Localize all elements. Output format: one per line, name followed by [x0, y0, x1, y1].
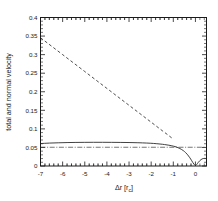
x-axis-title: Δr [rc] — [115, 183, 133, 193]
data-series-group — [41, 38, 207, 166]
y-tick-labels: 00.050.10.150.20.250.30.350.4 — [25, 14, 38, 170]
y-axis-title: total and normal velocity — [4, 53, 13, 131]
y-tick-label: 0.1 — [29, 125, 38, 132]
y-tick-label: 0.4 — [29, 14, 38, 21]
y-tick-label: 0 — [34, 162, 38, 169]
y-tick-label: 0.25 — [25, 69, 38, 76]
x-tick-label: -2 — [148, 170, 154, 177]
x-tick-label: -5 — [82, 170, 88, 177]
x-tick-label: -6 — [60, 170, 66, 177]
y-tick-label: 0.05 — [25, 144, 38, 151]
data-series-dashed — [41, 38, 174, 139]
x-tick-label: -3 — [126, 170, 132, 177]
axis-ticks — [41, 18, 207, 167]
y-tick-label: 0.2 — [29, 88, 38, 95]
data-series-solid — [41, 142, 207, 165]
x-tick-label: -4 — [104, 170, 110, 177]
y-tick-label: 0.35 — [25, 32, 38, 39]
plot-frame — [41, 18, 207, 167]
x-tick-label: -1 — [171, 170, 177, 177]
x-tick-labels: -7-6-5-4-3-2-10 — [38, 170, 198, 177]
chart-figure: -7-6-5-4-3-2-10 00.050.10.150.20.250.30.… — [0, 0, 218, 201]
x-tick-label: -7 — [38, 170, 44, 177]
x-tick-label: 0 — [194, 170, 198, 177]
y-tick-label: 0.15 — [25, 107, 38, 114]
chart-plot-area: -7-6-5-4-3-2-10 00.050.10.150.20.250.30.… — [0, 0, 218, 201]
y-tick-label: 0.3 — [29, 51, 38, 58]
